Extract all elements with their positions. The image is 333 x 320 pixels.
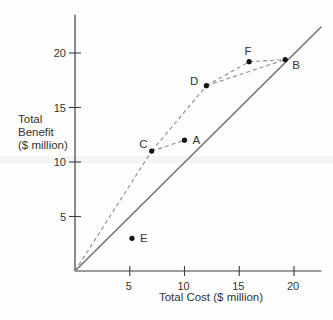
y-axis-title-line: ($ million) xyxy=(18,139,68,151)
data-point-B xyxy=(283,57,288,62)
point-label-E: E xyxy=(140,232,148,244)
chart-canvas: 51015205101520ABCDEFTotalBenefit($ milli… xyxy=(0,0,333,320)
benefit-equals-cost-45-degree-line xyxy=(75,27,321,271)
y-tick-label: 5 xyxy=(60,211,66,223)
cost-benefit-chart: 51015205101520ABCDEFTotalBenefit($ milli… xyxy=(0,0,333,320)
y-axis-title-line: Total xyxy=(18,113,42,125)
dashed-segment-origin-C xyxy=(75,151,152,271)
point-label-F: F xyxy=(245,45,252,57)
y-tick-label: 15 xyxy=(54,102,66,114)
data-point-F xyxy=(247,59,252,64)
y-tick-label: 20 xyxy=(54,47,66,59)
data-point-A xyxy=(182,138,187,143)
point-label-C: C xyxy=(139,138,147,150)
x-axis-title: Total Cost ($ million) xyxy=(159,291,263,303)
y-axis-title-line: Benefit xyxy=(18,126,55,138)
x-tick-label: 5 xyxy=(126,280,132,292)
point-label-A: A xyxy=(193,134,201,146)
x-tick-label: 20 xyxy=(287,280,299,292)
point-label-B: B xyxy=(292,59,300,71)
data-point-D xyxy=(204,83,209,88)
y-tick-label: 10 xyxy=(54,156,66,168)
data-point-C xyxy=(149,149,154,154)
point-label-D: D xyxy=(190,75,198,87)
data-point-E xyxy=(129,236,134,241)
